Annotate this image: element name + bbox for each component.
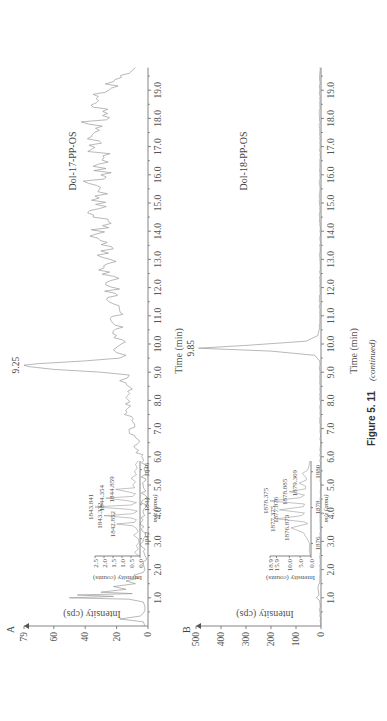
inset-y-tick-label: 1.5 bbox=[110, 559, 118, 568]
x-tick-label: 12.0 bbox=[153, 279, 163, 296]
x-tick-label: 15.0 bbox=[326, 194, 336, 211]
y-tick-label: 0 bbox=[316, 632, 326, 637]
retention-time-label: 9.85 bbox=[186, 340, 196, 357]
inset-x-tick-label: 1876 bbox=[314, 536, 322, 551]
x-tick-label: 15.0 bbox=[153, 194, 163, 211]
x-tick-label: 14.0 bbox=[153, 223, 163, 240]
x-tick-label: 11.0 bbox=[326, 307, 336, 324]
x-tick-label: 7.0 bbox=[326, 422, 336, 434]
x-tick-label: 9.0 bbox=[153, 366, 163, 378]
inset-peak-label: 1844.859 bbox=[108, 476, 116, 503]
inset-peak-label: 1842.852 bbox=[109, 510, 117, 537]
chromatogram-trace-a bbox=[24, 68, 147, 626]
inset-x-tick-label: 1878 bbox=[314, 500, 322, 515]
inset-y-tick-label: 18.9 bbox=[267, 559, 275, 572]
x-tick-label: 5.0 bbox=[326, 479, 336, 491]
y-tick-label: 60 bbox=[49, 632, 59, 642]
y-tick-label: 200 bbox=[266, 632, 276, 647]
x-tick-label: 8.0 bbox=[153, 394, 163, 406]
x-tick-label: 1.0 bbox=[153, 592, 163, 604]
panel-a: A Intensity (cps) Dol-17-PP-OS 1.02.03.0… bbox=[5, 68, 163, 642]
inset-x-tick-label: 1844 bbox=[143, 497, 151, 512]
y-tick-label: 100 bbox=[291, 632, 301, 647]
y-tick-label: 79 bbox=[19, 632, 29, 642]
figure-stage: A Intensity (cps) Dol-17-PP-OS 1.02.03.0… bbox=[0, 0, 387, 721]
x-tick-label: 6.0 bbox=[326, 451, 336, 463]
x-tick-label: 19.0 bbox=[326, 82, 336, 99]
inset-y-tick-label: 2.0 bbox=[101, 559, 109, 568]
inset-y-tick-label: 0.5 bbox=[128, 559, 136, 568]
figure-caption-number: Figure 5. 11 bbox=[366, 391, 377, 446]
x-tick-label: 14.0 bbox=[326, 223, 336, 240]
y-axis-arrow-icon bbox=[196, 623, 201, 629]
inset-x-tick-label: 1880 bbox=[314, 464, 322, 479]
inset-peak-label: 1843.841 bbox=[87, 493, 95, 520]
x-tick-label: 7.0 bbox=[153, 422, 163, 434]
x-tick-label: 2.0 bbox=[153, 563, 163, 575]
x-tick-label: 17.0 bbox=[326, 138, 336, 155]
inset-y-tick-label: 2.5 bbox=[92, 559, 100, 568]
x-tick-label: 8.0 bbox=[326, 394, 336, 406]
inset-y-tick-label: 1.0 bbox=[119, 559, 127, 568]
x-tick-label: 13.0 bbox=[153, 251, 163, 268]
x-tick-label: 18.0 bbox=[326, 110, 336, 127]
panel-b: B Intensity (cps) Dol-18-PP-OS 1.02.03.0… bbox=[181, 68, 336, 647]
x-tick-label: 3.0 bbox=[326, 535, 336, 547]
x-tick-label: 19.0 bbox=[153, 82, 163, 99]
y-tick-label: 400 bbox=[216, 632, 226, 647]
inset-peak-label: 1844.354 bbox=[98, 484, 106, 511]
panel-b-xlabel: Time (min) bbox=[348, 328, 360, 373]
chromatogram-trace-b bbox=[199, 68, 322, 626]
x-tick-label: 9.0 bbox=[326, 366, 336, 378]
inset-ylabel: Intensity (counts) bbox=[265, 574, 315, 582]
inset-y-tick-label: 10.0 bbox=[286, 559, 294, 572]
inset-xlabel: m/z (amu) bbox=[151, 494, 159, 523]
panel-a-xlabel: Time (min) bbox=[173, 328, 185, 373]
inset-peak-label: 1878.885 bbox=[281, 478, 289, 505]
inset-y-tick-label: 5.0 bbox=[297, 559, 305, 568]
y-axis-arrow-icon bbox=[24, 623, 29, 629]
inset-peak-label: 1876.873 bbox=[283, 514, 291, 541]
x-tick-label: 16.0 bbox=[326, 166, 336, 183]
panel-a-title: Dol-17-PP-OS bbox=[67, 132, 78, 191]
panel-b-ylabel: Intensity (cps) bbox=[236, 608, 294, 620]
x-tick-label: 1.0 bbox=[326, 592, 336, 604]
x-tick-label: 18.0 bbox=[153, 110, 163, 127]
y-tick-label: 40 bbox=[80, 632, 90, 642]
inset-x-tick-label: 1842 bbox=[143, 531, 151, 546]
x-tick-label: 10.0 bbox=[153, 335, 163, 352]
x-tick-label: 17.0 bbox=[153, 138, 163, 155]
x-tick-label: 16.0 bbox=[153, 166, 163, 183]
x-tick-label: 11.0 bbox=[153, 307, 163, 324]
y-tick-label: 20 bbox=[112, 632, 122, 642]
panel-a-ylabel: Intensity (cps) bbox=[63, 608, 121, 620]
retention-time-label: 9.25 bbox=[11, 357, 21, 374]
inset-x-tick-label: 1846 bbox=[143, 462, 151, 477]
inset-y-tick-label: 0.0 bbox=[137, 559, 145, 568]
inset-peak-label: 1878.375 bbox=[262, 487, 270, 514]
y-tick-label: 500 bbox=[191, 632, 201, 647]
x-tick-label: 10.0 bbox=[326, 335, 336, 352]
inset-y-tick-label: 0.0 bbox=[308, 559, 316, 568]
inset-peak-label: 1877.876 bbox=[272, 496, 280, 523]
panel-a-letter: A bbox=[5, 625, 16, 633]
x-tick-label: 2.0 bbox=[326, 563, 336, 575]
inset-peak-label: 1879.369 bbox=[291, 469, 299, 496]
panel-b-title: Dol-18-PP-OS bbox=[238, 132, 249, 191]
figure-svg: A Intensity (cps) Dol-17-PP-OS 1.02.03.0… bbox=[0, 0, 387, 721]
x-tick-label: 3.0 bbox=[153, 535, 163, 547]
x-tick-label: 5.0 bbox=[153, 479, 163, 491]
inset-xlabel: m/z (amu) bbox=[322, 494, 330, 523]
inset-ylabel: Intensity (counts) bbox=[92, 574, 142, 582]
y-tick-label: 300 bbox=[241, 632, 251, 647]
x-tick-label: 12.0 bbox=[326, 279, 336, 296]
x-tick-label: 13.0 bbox=[326, 251, 336, 268]
figure-caption-continued: (continued) bbox=[367, 340, 377, 381]
y-tick-label: 0 bbox=[143, 632, 153, 637]
x-tick-label: 6.0 bbox=[153, 451, 163, 463]
